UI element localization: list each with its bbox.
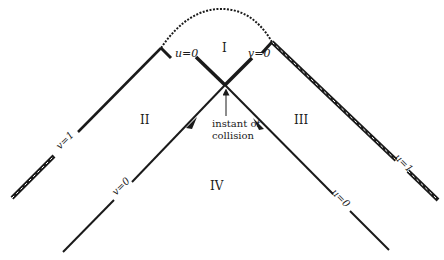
v1-line-label: v=1 [54,129,76,151]
v0-bottom-label: v=0 [110,175,133,198]
v0-region-I-line [225,58,252,85]
u0-wavefront-line [225,85,389,250]
u0-region-I-line [196,57,225,85]
collision-label-line2: collision [212,130,255,141]
u0-bottom-label: u=0 [330,187,353,210]
region-III-label: III [294,113,308,127]
region-II-label: II [140,113,150,127]
region-IV-label: IV [210,179,224,193]
u1-line-label: u=1 [393,152,416,175]
region-I-label: I [222,41,227,55]
v0-top-label: v=0 [248,47,270,60]
left-corner-tick [161,48,171,58]
u0-top-label: u=0 [175,47,198,60]
collision-label-line1: instant of [212,118,261,129]
v0-wavefront-line [63,85,225,252]
singularity-curve [161,9,272,48]
spacetime-diagram: I II III IV u=0 v=0 instant of collision… [0,0,444,260]
